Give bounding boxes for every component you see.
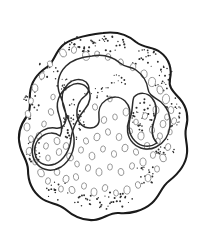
granule-dot bbox=[43, 71, 44, 72]
granule-dot bbox=[64, 84, 65, 85]
vacuole bbox=[58, 186, 63, 193]
granule-dot bbox=[48, 196, 49, 197]
granule-dot bbox=[53, 71, 54, 72]
granule-dot bbox=[157, 61, 159, 63]
granule-dot bbox=[97, 92, 99, 94]
vacuole bbox=[111, 150, 117, 157]
granule-dot bbox=[68, 49, 70, 51]
granule-dot bbox=[174, 106, 176, 108]
granule-dot bbox=[90, 195, 92, 197]
vacuole bbox=[155, 166, 160, 172]
granule-dot bbox=[159, 151, 161, 153]
granule-dot bbox=[88, 46, 90, 48]
granule-dot bbox=[101, 91, 102, 92]
granule-dot bbox=[143, 167, 144, 168]
granule-dot bbox=[105, 38, 107, 40]
granule-dot bbox=[29, 118, 31, 120]
granule-dot bbox=[116, 200, 118, 202]
granule-dot bbox=[104, 35, 106, 37]
granule-dot bbox=[24, 97, 26, 99]
granule-dot bbox=[90, 40, 92, 42]
granule-dot bbox=[161, 82, 163, 84]
granule-dot bbox=[147, 55, 149, 57]
granule-dot bbox=[105, 87, 106, 88]
granule-dot bbox=[95, 42, 96, 43]
granule-dot bbox=[153, 51, 155, 53]
granule-dot bbox=[151, 182, 153, 184]
granule-dot bbox=[83, 121, 85, 123]
granule-dot bbox=[121, 77, 123, 79]
granule-dot bbox=[55, 67, 57, 69]
granule-dot bbox=[67, 132, 69, 134]
granule-dot bbox=[89, 200, 90, 201]
granule-dot bbox=[74, 104, 75, 105]
granule-dot bbox=[115, 45, 117, 47]
granule-dot bbox=[138, 125, 140, 127]
granule-dot bbox=[164, 82, 165, 83]
vacuole bbox=[81, 182, 87, 189]
granule-dot bbox=[103, 39, 105, 41]
granule-dot bbox=[54, 182, 55, 183]
granule-dot bbox=[70, 120, 71, 121]
granule-dot bbox=[140, 57, 142, 59]
granule-dot bbox=[104, 41, 105, 42]
granule-dot bbox=[151, 176, 153, 178]
granule-dot bbox=[115, 50, 116, 51]
granule-dot bbox=[136, 111, 137, 112]
granule-dot bbox=[123, 41, 125, 43]
granule-dot bbox=[101, 88, 103, 90]
vacuole bbox=[134, 119, 139, 125]
granule-dot bbox=[155, 150, 157, 152]
granule-dot bbox=[74, 202, 76, 204]
granule-dot bbox=[149, 55, 150, 56]
granule-dot bbox=[73, 115, 74, 116]
vacuole bbox=[123, 108, 130, 116]
vacuole bbox=[105, 128, 111, 135]
granule-dot bbox=[62, 44, 64, 46]
granule-dot bbox=[98, 197, 99, 198]
granule-dot bbox=[99, 207, 100, 208]
granule-dot bbox=[66, 136, 68, 138]
granule-dot bbox=[163, 66, 165, 68]
granule-dot bbox=[71, 42, 73, 44]
granule-dot bbox=[168, 79, 170, 81]
granule-dot bbox=[84, 93, 85, 94]
granule-dot bbox=[48, 189, 50, 191]
granule-dot bbox=[69, 44, 71, 46]
vacuole bbox=[24, 123, 31, 131]
granule-dot bbox=[132, 112, 134, 114]
vacuole bbox=[113, 190, 119, 197]
granule-dot bbox=[142, 169, 143, 170]
vacuole bbox=[129, 162, 135, 169]
granule-dot bbox=[68, 135, 70, 137]
granule-dot bbox=[99, 39, 101, 41]
granule-dot bbox=[77, 114, 79, 116]
granule-dot bbox=[147, 62, 149, 64]
vacuole bbox=[41, 121, 47, 128]
granule-dot bbox=[176, 104, 177, 105]
granule-dot bbox=[46, 188, 48, 190]
granule-dot bbox=[178, 121, 179, 122]
granule-dot bbox=[101, 204, 103, 206]
granule-dot bbox=[81, 195, 83, 197]
granule-dot bbox=[141, 183, 142, 184]
vacuole bbox=[71, 46, 77, 54]
granule-dot bbox=[117, 41, 118, 42]
granule-dot bbox=[145, 56, 146, 57]
granule-dot bbox=[137, 112, 138, 113]
granule-dot bbox=[143, 109, 145, 111]
granule-dot bbox=[109, 202, 111, 204]
vacuole bbox=[28, 97, 34, 104]
granule-dot bbox=[139, 129, 141, 131]
granule-dot bbox=[107, 206, 108, 207]
granule-dot bbox=[76, 139, 77, 140]
granule-dot bbox=[73, 44, 75, 46]
granule-dot bbox=[173, 149, 175, 151]
granule-dot bbox=[164, 75, 166, 77]
granule-dot bbox=[171, 71, 173, 73]
granule-dot bbox=[141, 167, 143, 169]
granule-dot bbox=[142, 58, 144, 60]
granule-dot bbox=[73, 119, 75, 121]
granule-dot bbox=[128, 202, 129, 203]
granule-dot bbox=[167, 139, 168, 140]
